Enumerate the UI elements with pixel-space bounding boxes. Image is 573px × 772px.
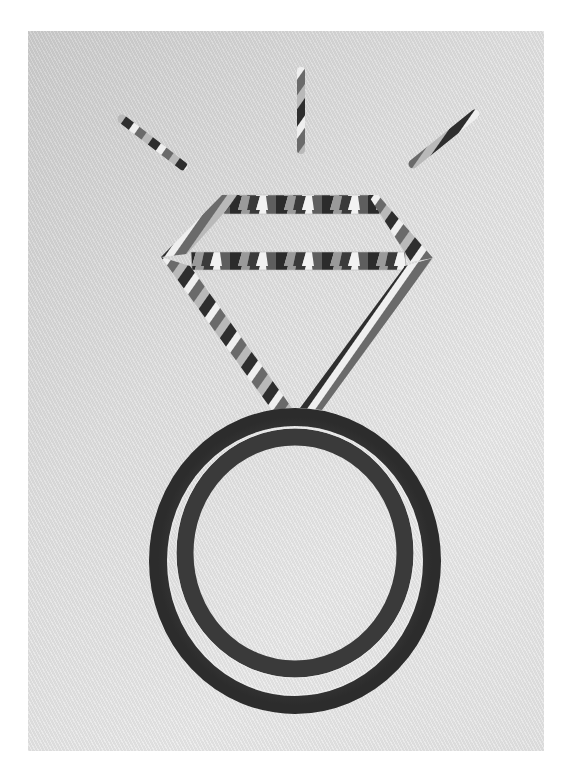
sparkle-right [413,114,475,164]
ring-bands [158,417,432,705]
sparkle-left [122,119,183,166]
sparkle-lines [122,71,475,166]
diamond-outline [161,195,433,410]
inner-band [185,437,405,669]
ring-artwork [0,0,573,772]
